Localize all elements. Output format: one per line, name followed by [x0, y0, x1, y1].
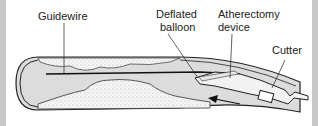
cutter-label: Cutter — [272, 44, 302, 57]
guidewire-label: Guidewire — [38, 10, 88, 23]
deflated-balloon-label-line2: balloon — [160, 21, 195, 34]
atherectomy-device-label-line2: device — [218, 21, 250, 34]
atherectomy-device-label-line1: Atherectomy — [218, 8, 280, 21]
deflated-balloon-label-line1: Deflated — [156, 8, 197, 21]
